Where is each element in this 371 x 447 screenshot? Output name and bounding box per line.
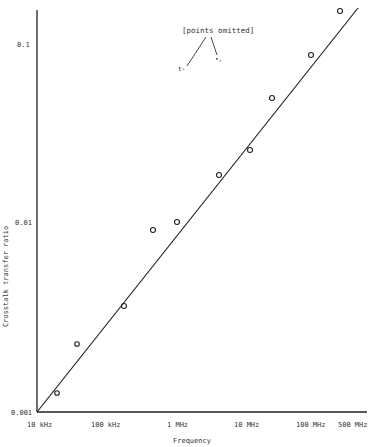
chart: 0.1 0.01 0.001 10 kHz 100 kHz 1 MHz 10 M… — [0, 0, 371, 447]
data-point — [151, 228, 156, 233]
data-point — [122, 304, 127, 309]
x-axis-title: Frequency — [173, 437, 211, 445]
data-point — [75, 342, 80, 347]
data-point — [309, 53, 314, 58]
data-point — [217, 173, 222, 178]
data-point — [175, 220, 180, 225]
y-tick-label: 0.1 — [17, 41, 30, 49]
data-point — [55, 391, 60, 396]
annotation-leader — [187, 37, 206, 66]
x-tick-label: 100 kHz — [91, 421, 121, 429]
y-axis-title: Crosstalk transfer ratio — [2, 226, 10, 327]
data-points — [55, 9, 343, 396]
annotation-label: [points omitted] — [182, 26, 254, 35]
x-tick-label: 10 kHz — [27, 421, 52, 429]
y-tick-label: 0.01 — [15, 219, 32, 227]
annotation-mark: •‚ — [215, 55, 222, 62]
x-tick-label: 1 MHz — [167, 421, 188, 429]
y-tick-label: 0.001 — [11, 409, 32, 417]
data-point — [270, 96, 275, 101]
annotation-leader — [211, 37, 217, 55]
x-tick-label: 100 MHz — [296, 421, 326, 429]
annotation-mark: t› — [178, 65, 185, 72]
fit-line — [37, 8, 358, 412]
x-tick-label: 10 MHz — [234, 421, 259, 429]
data-point — [248, 148, 253, 153]
x-tick-label: 500 MHz — [338, 421, 368, 429]
data-point — [338, 9, 343, 14]
